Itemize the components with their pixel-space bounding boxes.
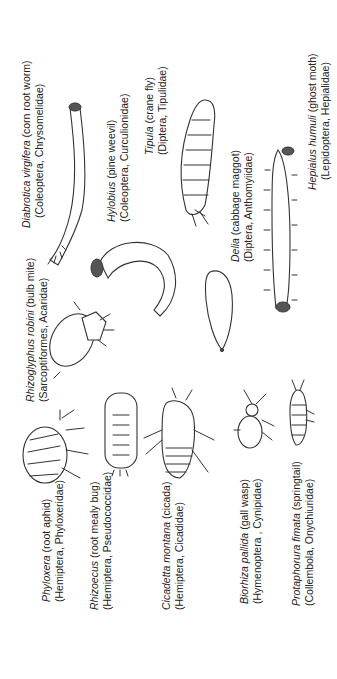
protaphorura-springtail-drawing — [290, 380, 314, 445]
label-protaphorura-taxon: (Collembola, Onychiuridae) — [303, 461, 316, 606]
cicadetta-nymph-drawing — [144, 388, 214, 478]
hylobius-grub-drawing — [91, 242, 176, 316]
delia-maggot-drawing — [205, 271, 232, 352]
label-rhizoglyphus-taxon: (Sarcoptiformes, Acaridae) — [37, 258, 50, 402]
label-cicadetta: Cicadetta montana (cicada) (Hemiptera, C… — [160, 482, 185, 610]
label-cicadetta-taxon: (Hemiptera, Cicadidae) — [173, 482, 186, 610]
diabrotica-larva-drawing — [48, 103, 85, 265]
tipula-larva-drawing — [181, 100, 215, 226]
label-hylobius-taxon: (Coleoptera, Curculionidae) — [118, 94, 131, 222]
label-biorhiza: Biorhiza pallida (gall wasp) (Hymenopter… — [238, 479, 263, 604]
phylloxera-drawing — [23, 410, 88, 483]
label-hepialus-taxon: (Lepidoptera, Hepialidae) — [319, 53, 332, 190]
label-diabrotica-taxon: (Coleoptera, Chrysomelidae) — [33, 61, 46, 228]
biorhiza-wasp-drawing — [234, 390, 274, 448]
rhizoglyphus-mite-drawing — [41, 302, 114, 378]
label-phylloxera: Phyloxera (root aphid) (Hemiptera, Phylo… — [40, 480, 65, 602]
root-herbivore-figure: Diabrotica virgifera (corn root worm) (C… — [0, 0, 337, 679]
label-diabrotica: Diabrotica virgifera (corn root worm) (C… — [20, 61, 45, 228]
label-hepialus: Hepialus humuli (ghost moth) (Lepidopter… — [306, 53, 331, 190]
label-tipula-taxon: (Diptera, Tipulidae) — [156, 66, 169, 155]
label-rhizoecus: Rhizoecus (root mealy bug) (Hemiptera, P… — [88, 472, 113, 610]
label-biorhiza-taxon: (Hymenoptera , Cynipidae) — [251, 479, 264, 604]
hepialus-caterpillar-drawing — [264, 147, 297, 312]
label-protaphorura: Protaphorura fimata (springtail) (Collem… — [290, 461, 315, 606]
label-tipula: Tipula (crane fly) (Diptera, Tipulidae) — [143, 66, 168, 155]
label-phylloxera-taxon: (Hemiptera, Phyloxeridae) — [53, 480, 66, 602]
label-delia-taxon: (Diptera, Anthomyiidae) — [242, 150, 255, 262]
label-hylobius: Hylobius (pine weevil) (Coleoptera, Curc… — [105, 94, 130, 222]
label-diabrotica-line1: Diabrotica virgifera (corn root worm) — [20, 61, 33, 228]
label-rhizoglyphus: Rhizoglyphus robini (bulb mite) (Sarcopt… — [24, 258, 49, 402]
rhizoecus-drawing — [105, 393, 137, 476]
label-delia: Delia (cabbage maggot) (Diptera, Anthomy… — [229, 150, 254, 262]
label-rhizoecus-taxon: (Hemiptera, Pseudococcidae) — [101, 472, 114, 610]
